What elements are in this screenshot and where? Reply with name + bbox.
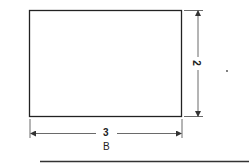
rectangle-shape: [30, 11, 182, 117]
caption-label: B: [103, 142, 110, 152]
diagram-canvas: [0, 0, 249, 163]
height-label: 2: [191, 60, 201, 66]
width-label: 3: [103, 128, 109, 138]
stray-dot: [226, 70, 228, 72]
